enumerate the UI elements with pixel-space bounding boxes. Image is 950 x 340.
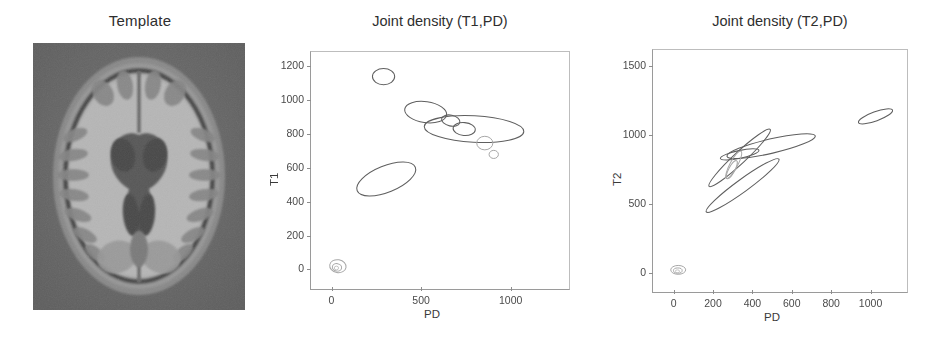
x-tick-label: 200 — [691, 297, 735, 309]
y-tick-label: 1000 — [266, 93, 304, 105]
x-tick-label: 0 — [652, 297, 696, 309]
covariance-ellipse — [675, 270, 679, 273]
x-tick-label: 1000 — [489, 294, 533, 306]
x-tick-label: 600 — [770, 297, 814, 309]
covariance-ellipse — [352, 155, 420, 203]
covariance-ellipse — [857, 106, 894, 127]
x-tick-label: 800 — [809, 297, 853, 309]
y-tick-label: 400 — [266, 195, 304, 207]
covariance-ellipse — [489, 150, 498, 158]
y-tick-mark — [649, 135, 653, 136]
covariance-ellipse — [332, 263, 342, 272]
plot-area-t1 — [310, 51, 570, 290]
covariance-ellipse — [334, 266, 338, 270]
x-tick-mark — [674, 290, 675, 294]
y-tick-mark — [307, 168, 311, 169]
y-tick-mark — [307, 66, 311, 67]
covariance-ellipse — [403, 99, 448, 126]
x-tick-mark — [511, 287, 512, 291]
brain-mri-image — [33, 43, 245, 310]
chart-title-t1: Joint density (T1,PD) — [300, 13, 580, 29]
y-tick-mark — [307, 100, 311, 101]
x-axis-label-t1: PD — [424, 308, 440, 320]
covariance-ellipse — [424, 113, 525, 145]
brain-slice-svg — [33, 43, 245, 310]
y-tick-label: 1500 — [608, 59, 646, 71]
ellipses-t1 — [311, 52, 571, 291]
x-tick-label: 500 — [399, 294, 443, 306]
y-tick-label: 500 — [608, 197, 646, 209]
x-tick-mark — [713, 290, 714, 294]
ellipses-t2 — [653, 50, 909, 294]
template-title: Template — [0, 12, 280, 29]
y-tick-label: 0 — [608, 266, 646, 278]
x-axis-label-t2: PD — [764, 311, 780, 323]
y-tick-mark — [649, 204, 653, 205]
y-tick-mark — [649, 66, 653, 67]
covariance-ellipse — [477, 136, 493, 150]
x-tick-mark — [871, 290, 872, 294]
x-tick-mark — [792, 290, 793, 294]
y-tick-mark — [307, 236, 311, 237]
covariance-ellipse — [453, 122, 476, 137]
x-tick-mark — [831, 290, 832, 294]
x-tick-label: 1000 — [849, 297, 893, 309]
y-tick-mark — [649, 273, 653, 274]
y-tick-mark — [307, 202, 311, 203]
y-tick-label: 0 — [266, 262, 304, 274]
x-tick-label: 400 — [730, 297, 774, 309]
plot-area-t2 — [652, 49, 908, 293]
y-tick-mark — [307, 269, 311, 270]
x-tick-mark — [421, 287, 422, 291]
y-axis-label-t1: T1 — [268, 173, 280, 186]
covariance-ellipse — [720, 147, 760, 163]
y-tick-label: 800 — [266, 127, 304, 139]
y-axis-label-t2: T2 — [611, 173, 623, 186]
x-tick-mark — [332, 287, 333, 291]
y-tick-label: 600 — [266, 161, 304, 173]
y-tick-mark — [307, 134, 311, 135]
template-panel: Template — [0, 0, 280, 340]
chart-title-t2: Joint density (T2,PD) — [640, 13, 920, 29]
y-tick-label: 1200 — [266, 59, 304, 71]
y-tick-label: 200 — [266, 229, 304, 241]
x-tick-mark — [752, 290, 753, 294]
y-tick-label: 1000 — [608, 128, 646, 140]
covariance-ellipse — [372, 68, 394, 84]
x-tick-label: 0 — [310, 294, 354, 306]
